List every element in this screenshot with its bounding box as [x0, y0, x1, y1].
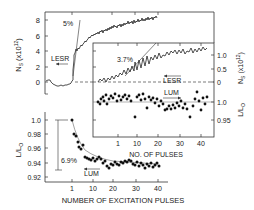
annotation-lesr-inset: LESR — [163, 77, 181, 84]
annotation-5pct: 5% — [63, 20, 73, 27]
inset-right-ytick: 0 — [217, 79, 221, 86]
bottom-ytick: 0.98 — [27, 131, 41, 138]
main-ytick: 0 — [36, 78, 40, 87]
bottom-x-axis-label: NUMBER OF EXCITATION PULSES — [62, 196, 185, 205]
inset-right-ytick: 1.0 — [217, 52, 227, 59]
annotation-6-9pct: 6.9% — [61, 157, 77, 164]
annotation-lum-bottom: LUM — [84, 170, 99, 177]
main-ytick: 8 — [36, 16, 40, 25]
annotation-3-7pct: 3.7% — [117, 56, 133, 63]
bottom-ytick: 1.0 — [31, 117, 41, 124]
arrow-left-icon — [56, 63, 59, 66]
bottom-y-axis-label: L/LO — [14, 143, 24, 157]
slope-line-5pct — [73, 20, 80, 76]
inset-llo-axis-label: L/LO — [237, 103, 246, 117]
bottom-ytick: 0.96 — [27, 145, 41, 152]
inset-plot: 3.7% LESR LUM — [93, 43, 246, 158]
annotation-lesr-main: LESR — [51, 55, 69, 62]
inset-right-ytick: 0.95 — [217, 117, 231, 124]
inset-xtick: 1 — [116, 140, 120, 147]
bottom-ytick: 0.92 — [27, 174, 41, 181]
main-y-axis-label: NS (x1012) — [13, 38, 24, 72]
inset-x-axis-label: NO. OF PULSES — [129, 151, 183, 158]
main-ytick: 6 — [36, 32, 40, 41]
inset-xtick: 20 — [154, 140, 162, 147]
bottom-xtick: 40 — [154, 185, 162, 192]
main-ytick: 2 — [36, 63, 40, 72]
inset-xtick: 40 — [197, 140, 205, 147]
bottom-ytick: 0.94 — [27, 160, 41, 167]
inset-right-ytick: 1.0 — [217, 99, 227, 106]
bottom-xtick: 20 — [109, 185, 117, 192]
annotation-lum-inset: LUM — [164, 89, 179, 96]
inset-xtick: 10 — [133, 140, 141, 147]
inset-xtick: 30 — [176, 140, 184, 147]
inset-right-ytick: 0.5 — [217, 66, 227, 73]
inset-ns-axis-label: NS (x1012) — [235, 52, 246, 84]
main-ytick: 4 — [36, 47, 40, 56]
figure: 8 6 4 2 0 NS (x1012) 5% LESR — [0, 0, 254, 210]
bottom-xtick: 10 — [89, 185, 97, 192]
bottom-xtick: 30 — [132, 185, 140, 192]
bottom-xtick: 1 — [70, 185, 74, 192]
